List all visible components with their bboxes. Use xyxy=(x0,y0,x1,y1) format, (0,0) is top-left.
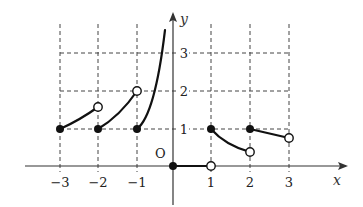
grid-lines xyxy=(60,24,289,172)
closed-point-neg1-1 xyxy=(133,125,141,133)
curve-segment-neg1-0 xyxy=(137,30,165,129)
open-point-neg2 xyxy=(94,103,102,111)
x-tick-neg3: −3 xyxy=(50,175,69,190)
x-tick-1: 1 xyxy=(207,175,215,190)
curve-segment-1-2 xyxy=(211,129,250,152)
x-tick-3: 3 xyxy=(285,175,293,190)
y-tick-labels: 1 2 3 xyxy=(179,46,189,137)
open-point-1-0 xyxy=(207,162,215,170)
x-axis-label: x xyxy=(333,172,341,188)
function-curves xyxy=(60,30,289,166)
curve-segment-neg3-neg2 xyxy=(60,107,98,129)
closed-point-neg3-1 xyxy=(56,125,64,133)
y-tick-2: 2 xyxy=(180,84,188,99)
axes xyxy=(25,14,346,205)
closed-point-2-1 xyxy=(246,125,254,133)
x-tick-labels: −3 −2 −1 1 2 3 xyxy=(50,175,293,190)
curve-segment-neg2-neg1 xyxy=(98,91,137,129)
closed-point-1-1 xyxy=(207,125,215,133)
closed-point-0-0 xyxy=(169,162,177,170)
open-point-2 xyxy=(246,148,254,156)
origin-label: O xyxy=(155,146,166,161)
curve-segment-2-3 xyxy=(250,129,289,138)
function-graph: x y O −3 −2 −1 1 2 3 1 2 3 xyxy=(0,0,363,207)
closed-point-neg2-1 xyxy=(94,125,102,133)
y-tick-1: 1 xyxy=(180,122,188,137)
x-tick-2: 2 xyxy=(246,175,254,190)
y-axis-label: y xyxy=(179,11,189,27)
y-tick-3: 3 xyxy=(180,46,188,61)
open-point-3 xyxy=(285,134,293,142)
open-point-neg1 xyxy=(133,87,141,95)
x-tick-neg2: −2 xyxy=(88,175,107,190)
x-tick-neg1: −1 xyxy=(127,175,146,190)
